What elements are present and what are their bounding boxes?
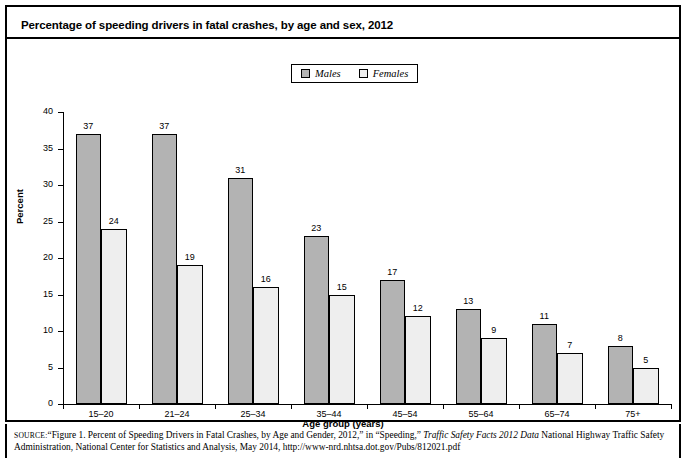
source-label: SOURCE: (14, 431, 47, 440)
figure-root: Percentage of speeding drivers in fatal … (0, 0, 690, 458)
bar-females-25–34 (253, 287, 279, 404)
y-tick-mark (58, 258, 63, 259)
bar-value-label: 17 (374, 267, 412, 277)
bar-females-75+ (633, 368, 659, 405)
source-rule-left (5, 424, 7, 458)
bar-value-label: 9 (475, 325, 513, 335)
bar-females-15–20 (101, 229, 127, 404)
y-axis-line (63, 112, 64, 405)
bar-females-21–24 (177, 265, 203, 404)
bar-males-25–34 (228, 178, 254, 404)
bar-value-label: 12 (399, 303, 437, 313)
bar-value-label: 37 (70, 121, 108, 131)
source-text-part1: “Figure 1. Percent of Speeding Drivers i… (47, 430, 423, 440)
y-tick-label: 10 (27, 325, 53, 335)
x-axis-title: Age group (years) (7, 418, 679, 429)
y-tick-label: 25 (27, 216, 53, 226)
bar-value-label: 8 (602, 333, 640, 343)
source-rule-right (679, 424, 681, 458)
y-tick-label: 35 (27, 143, 53, 153)
y-tick-label: 15 (27, 289, 53, 299)
source-italic-title: Traffic Safety Facts 2012 Data (423, 430, 539, 440)
bar-value-label: 19 (171, 252, 209, 262)
y-tick-label: 40 (27, 106, 53, 116)
bar-males-55–64 (456, 309, 482, 404)
bar-value-label: 13 (450, 296, 488, 306)
y-tick-label: 30 (27, 179, 53, 189)
bar-value-label: 37 (146, 121, 184, 131)
y-tick-mark (58, 222, 63, 223)
y-tick-label: 5 (27, 362, 53, 372)
bar-value-label: 11 (526, 311, 564, 321)
bar-males-35–44 (304, 236, 330, 404)
y-tick-mark (58, 112, 63, 113)
bar-value-label: 5 (627, 355, 665, 365)
y-axis-title: Percent (14, 189, 25, 224)
bar-value-label: 31 (222, 165, 260, 175)
bar-value-label: 16 (247, 274, 285, 284)
bar-females-35–44 (329, 295, 355, 405)
bar-males-21–24 (152, 134, 178, 404)
bar-females-65–74 (557, 353, 583, 404)
bar-value-label: 23 (298, 223, 336, 233)
bar-value-label: 24 (95, 216, 133, 226)
plot-area: Percent 0510152025303540 372437193116231… (7, 7, 679, 420)
y-tick-mark (58, 185, 63, 186)
bar-females-45–54 (405, 316, 431, 404)
bar-males-15–20 (76, 134, 102, 404)
bar-females-55–64 (481, 338, 507, 404)
bar-value-label: 7 (551, 340, 589, 350)
y-tick-mark (58, 149, 63, 150)
y-tick-mark (58, 368, 63, 369)
y-tick-label: 20 (27, 252, 53, 262)
source-note: SOURCE:“Figure 1. Percent of Speeding Dr… (14, 430, 674, 453)
bar-value-label: 15 (323, 282, 361, 292)
y-tick-mark (58, 331, 63, 332)
figure-frame: Percentage of speeding drivers in fatal … (5, 5, 681, 422)
bar-males-45–54 (380, 280, 406, 404)
y-tick-label: 0 (27, 398, 53, 408)
bar-males-65–74 (532, 324, 558, 404)
y-tick-mark (58, 295, 63, 296)
x-tick-mark (671, 404, 672, 409)
